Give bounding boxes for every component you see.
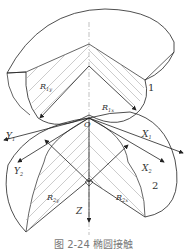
body-1-shape: [7, 9, 174, 124]
r1y-radius-line: [40, 66, 89, 118]
body-2-label: 2: [152, 180, 158, 191]
r1x-label: R1x: [101, 103, 114, 113]
y1-label: Y1: [6, 131, 15, 142]
r2x-label: R2x: [115, 193, 128, 203]
r1y-label: R1y: [39, 82, 52, 93]
z-label: Z: [75, 206, 83, 216]
axes: [4, 118, 183, 222]
x1-label: X1: [141, 129, 152, 140]
origin-label: O: [84, 120, 91, 129]
figure-caption: 图 2-24 椭圆接触: [0, 236, 187, 250]
y1-axis: [4, 118, 89, 140]
y2-label: Y2: [14, 166, 23, 177]
x2-label: X2: [141, 163, 152, 174]
elliptical-contact-diagram: O Y1 Y2 X1 X2 Z R1y R1x R2y R2x 1 2: [0, 0, 187, 250]
x1-axis: [89, 118, 183, 153]
r2y-label: R2y: [46, 193, 59, 204]
body-1-label: 1: [148, 82, 154, 93]
